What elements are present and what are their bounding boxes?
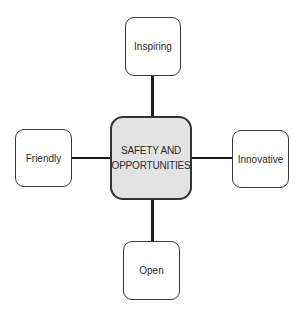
node-open: Open [123, 241, 180, 300]
node-inspiring: Inspiring [125, 17, 181, 76]
node-innovative: Innovative [232, 130, 289, 188]
center-label: SAFETY AND OPPORTUNITIES [112, 143, 191, 173]
node-friendly: Friendly [15, 129, 72, 187]
connector-right [190, 157, 233, 159]
node-label: Innovative [238, 154, 284, 165]
center-node-safety-and-opportunities: SAFETY AND OPPORTUNITIES [110, 116, 192, 200]
node-label: Inspiring [134, 41, 172, 52]
center-label-line2: OPPORTUNITIES [112, 158, 191, 173]
connector-left [71, 157, 112, 159]
node-label: Friendly [26, 153, 62, 164]
connector-bottom [151, 198, 154, 242]
connector-top [151, 75, 154, 118]
node-label: Open [139, 265, 163, 276]
center-label-line1: SAFETY AND [112, 143, 191, 158]
